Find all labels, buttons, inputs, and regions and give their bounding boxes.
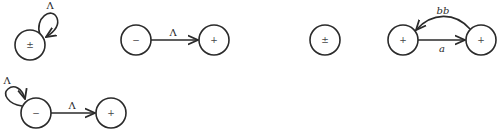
edge-label: bb [437,5,450,16]
edge-label: Λ [45,0,54,11]
state-sign: − [132,35,140,45]
edge-label: Λ [168,27,177,38]
edge-label: Λ [67,100,76,111]
graph-4: + + a bb [388,5,496,55]
state-sign: ± [26,40,34,50]
edge-label: Λ [2,75,11,86]
edge-label: a [439,43,445,54]
state-sign: + [477,35,485,45]
transition-edge-bb [416,16,470,30]
state-sign: ± [321,35,329,45]
graph-3: ± [310,25,340,55]
automaton-diagrams: ± Λ − + Λ ± + + a bb − + Λ Λ [0,0,500,133]
state-sign: + [210,35,218,45]
graph-5: − + Λ Λ [2,75,126,128]
state-sign: − [32,108,40,118]
self-loop-edge [6,87,25,106]
graph-1: ± Λ [15,0,58,60]
self-loop-edge [39,13,58,37]
graph-2: − + Λ [121,25,229,55]
state-sign: + [107,108,115,118]
state-sign: + [399,35,407,45]
